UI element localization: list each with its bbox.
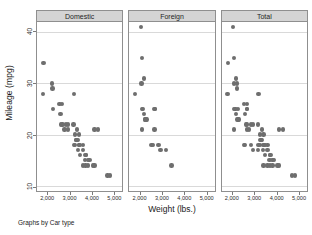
data-point [251,122,255,126]
data-point [272,158,276,162]
x-tick-label: 2,000 [133,195,147,201]
data-point [84,153,88,157]
data-point [277,163,281,167]
data-point [71,122,75,126]
gridline [129,32,214,33]
data-point [251,148,255,152]
data-point [236,107,240,111]
data-point [141,107,145,111]
data-point [41,61,45,65]
panel-header-label: Foreign [128,10,215,21]
data-point [261,132,265,136]
panel-row: DomesticForeignTotal [36,10,308,192]
data-point [256,122,260,126]
y-axis-title: Mileage (mpg) [2,0,16,185]
graph-note: Graphs by Car type [18,219,74,226]
data-point [232,127,236,131]
data-point [225,92,229,96]
data-point [58,112,62,116]
x-tick-label: 3,000 [247,195,261,201]
data-point [96,127,100,131]
data-point [86,163,90,167]
gridline [222,32,307,33]
data-point [169,163,173,167]
data-point [50,81,54,85]
panel-domestic: Domestic [36,10,123,192]
y-tick-label-text: 20 [26,131,33,138]
data-point [247,127,251,131]
x-tick-label: 3,000 [155,195,169,201]
data-point [281,127,285,131]
gridline [37,186,122,187]
panel-plot-area [36,21,123,192]
data-point [60,102,64,106]
data-point [263,153,267,157]
data-point [81,143,85,147]
x-tick-label: 5,000 [200,195,214,201]
data-point [50,86,54,90]
data-point [66,122,70,126]
data-point [140,56,144,60]
data-point [243,143,247,147]
x-tick-label: 4,000 [85,195,99,201]
data-point [249,143,253,147]
panel-header-label: Total [221,10,308,21]
y-tick-label-text: 10 [26,183,33,190]
data-point [78,153,82,157]
data-point [234,76,238,80]
panel-plot-area [128,21,215,192]
data-point [231,25,235,29]
y-axis-title-label: Mileage (mpg) [4,65,14,121]
data-point [66,127,70,131]
data-point [268,153,272,157]
x-tick-label: 3,000 [63,195,77,201]
chart-root: Mileage (mpg) 10203040 DomesticForeignTo… [0,0,312,235]
y-tick-label: 10 [17,182,33,192]
gridline [222,186,307,187]
data-point [151,143,155,147]
data-point [152,127,156,131]
data-point [153,107,157,111]
data-point [256,148,260,152]
panel-header-label: Domestic [36,10,123,21]
data-point [293,173,297,177]
gridline [129,186,214,187]
x-tick-label: 4,000 [177,195,191,201]
data-point [51,107,55,111]
x-axis-title: Weight (lbs.) [36,204,308,214]
data-point [72,92,76,96]
data-point [234,112,238,116]
data-point [245,102,249,106]
y-tick-label: 20 [17,130,33,140]
data-point [139,81,143,85]
x-tick-label: 5,000 [107,195,121,201]
data-point [243,112,247,116]
data-point [265,148,269,152]
data-point [260,127,264,131]
data-point [133,92,137,96]
data-point [260,138,264,142]
y-tick-label-text: 40 [26,28,33,35]
y-tick-label: 40 [17,26,33,36]
data-point [142,112,146,116]
gridline [37,32,122,33]
data-point [235,81,239,85]
panel-total: Total [221,10,308,192]
panel-foreign: Foreign [128,10,215,192]
panel-plot-area [221,21,308,192]
data-point [139,25,143,29]
data-point [77,132,81,136]
data-point [108,173,112,177]
x-tick-label: 5,000 [292,195,306,201]
data-point [156,143,160,147]
data-point [81,148,85,152]
data-point [140,127,144,131]
data-point [270,163,274,167]
y-tick-label-text: 30 [26,80,33,87]
data-point [164,148,168,152]
data-point [144,117,148,121]
data-point [76,148,80,152]
y-axis: 10203040 [16,0,36,200]
data-point [75,127,79,131]
data-point [75,138,79,142]
